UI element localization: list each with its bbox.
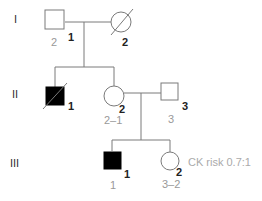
generation-label-III: III (10, 157, 19, 169)
individual-sub-label: 2 (51, 36, 57, 48)
individual-number: 1 (68, 31, 74, 43)
individual-number: 1 (124, 168, 130, 180)
pedigree-chart: I II III 1 2 2 1 2 (0, 0, 262, 201)
individual-number: 2 (176, 166, 182, 178)
individual-I-2[interactable]: 2 (111, 9, 133, 48)
male-square-icon (45, 10, 64, 29)
individual-sub-label: 2–1 (104, 114, 122, 126)
individual-III-2[interactable]: 2 3–2 CK risk 0.7:1 (161, 152, 251, 190)
individual-number: 2 (122, 36, 128, 48)
generation-label-I: I (14, 13, 17, 25)
individual-number: 1 (68, 100, 74, 112)
individual-I-1[interactable]: 1 2 (45, 10, 74, 48)
individual-II-1[interactable]: 1 (43, 83, 74, 112)
individual-II-2[interactable]: 2 2–1 (104, 86, 125, 126)
individual-III-1[interactable]: 1 1 (104, 152, 130, 191)
affected-male-square-icon (104, 152, 121, 169)
individual-number: 3 (182, 100, 188, 112)
male-square-icon (161, 83, 178, 100)
risk-annotation: CK risk 0.7:1 (188, 156, 251, 168)
generation-label-II: II (12, 88, 18, 100)
individual-II-3[interactable]: 3 3 (161, 83, 188, 125)
individual-sub-label: 3–2 (162, 178, 180, 190)
individual-sub-label: 1 (110, 179, 116, 191)
individual-sub-label: 3 (168, 113, 174, 125)
